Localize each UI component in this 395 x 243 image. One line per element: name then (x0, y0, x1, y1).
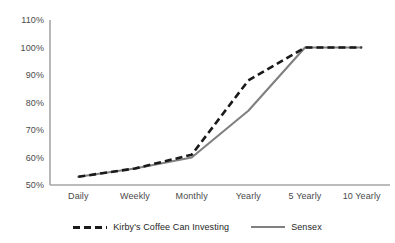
y-axis-tick-labels: 50%60%70%80%90%100%110% (0, 0, 44, 243)
legend-item[interactable]: Kirby's Coffee Can Investing (73, 222, 229, 232)
series-layer (78, 48, 361, 177)
y-axis-tick-label: 110% (0, 15, 44, 25)
series-line-sensex (78, 48, 361, 177)
y-axis-tick-label: 60% (0, 153, 44, 163)
y-axis-tick-label: 70% (0, 125, 44, 135)
y-axis-tick-label: 100% (0, 43, 44, 53)
series-line-kirbys-coffee-can-investing (78, 48, 361, 177)
y-axis-tick-label: 80% (0, 98, 44, 108)
solid-line-swatch (251, 226, 285, 228)
dashed-line-swatch (73, 226, 107, 229)
x-axis-tick-label: Daily (68, 191, 89, 201)
x-axis-tick-label: Yearly (236, 191, 261, 201)
x-axis-tick-label: Weekly (120, 191, 150, 201)
plot-area (0, 0, 395, 243)
chart-legend: Kirby's Coffee Can InvestingSensex (0, 218, 395, 236)
x-axis-tick-label: 5 Yearly (289, 191, 322, 201)
legend-item[interactable]: Sensex (251, 222, 322, 232)
x-axis-tick-label: 10 Yearly (343, 191, 381, 201)
y-axis-tick-label: 90% (0, 70, 44, 80)
axis-lines (50, 20, 390, 185)
line-chart: 50%60%70%80%90%100%110% DailyWeeklyMonth… (0, 0, 395, 243)
x-axis-tick-label: Monthly (176, 191, 208, 201)
y-axis-tick-label: 50% (0, 180, 44, 190)
legend-label: Kirby's Coffee Can Investing (113, 222, 229, 232)
legend-label: Sensex (291, 222, 322, 232)
x-axis-tick-labels: DailyWeeklyMonthlyYearly5 Yearly10 Yearl… (50, 191, 390, 205)
